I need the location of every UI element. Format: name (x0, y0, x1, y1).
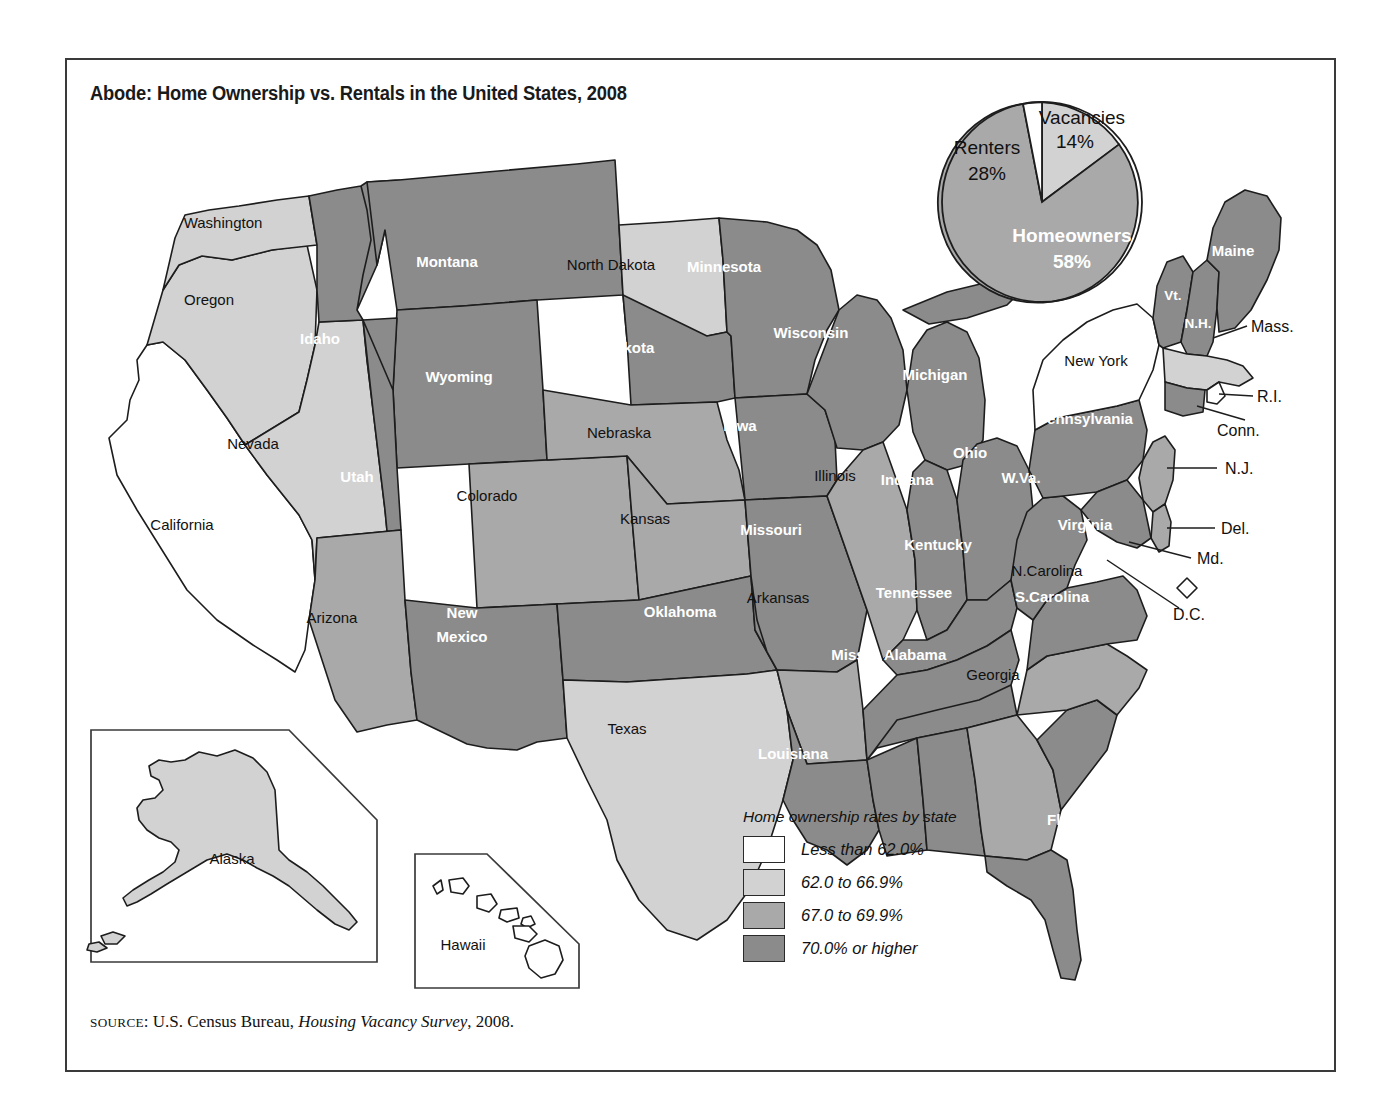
label-louisiana: Louisiana (758, 745, 829, 762)
state-new-mexico[interactable] (405, 600, 567, 750)
marker-dc-diamond (1177, 578, 1197, 598)
inset-label-alaska: Alaska (209, 850, 255, 867)
pie-label-renters: Renters (954, 137, 1021, 158)
legend-label-2: 67.0 to 69.9% (801, 906, 903, 925)
legend-row[interactable]: 67.0 to 69.9% (743, 902, 957, 929)
label-arkansas: Arkansas (747, 589, 810, 606)
inset-shape-hawaii[interactable] (433, 878, 563, 978)
label-mississippi: Miss. (831, 646, 869, 663)
pie-chart: Vacancies 14% Renters 28% Homeowners 58% (938, 102, 1142, 303)
pie-label-homeowners: Homeowners (1012, 225, 1131, 246)
label-kansas: Kansas (620, 510, 670, 527)
callout-conn: Conn. (1217, 422, 1260, 439)
pie-label-vacancies: Vacancies (1039, 107, 1125, 128)
label-utah: Utah (340, 468, 373, 485)
label-wyoming: Wyoming (425, 368, 492, 385)
legend-row[interactable]: 70.0% or higher (743, 935, 957, 962)
label-new-mexico-line1: New (447, 604, 478, 621)
state-colorado[interactable] (469, 456, 639, 608)
label-alabama: Alabama (884, 646, 947, 663)
map-figure: Vacancies 14% Renters 28% Homeowners 58%… (67, 60, 1334, 1070)
legend-title: Home ownership rates by state (743, 808, 957, 826)
legend-label-0: Less than 62.0% (801, 840, 924, 859)
label-pennsylvania: Pennsylvania (1037, 410, 1134, 427)
label-nevada: Nevada (227, 435, 279, 452)
label-texas: Texas (607, 720, 646, 737)
hawaii-inset: Hawaii (415, 854, 579, 988)
legend-swatch-2 (743, 902, 785, 929)
label-west-virginia: W.Va. (1001, 469, 1040, 486)
label-new-hampshire: N.H. (1185, 316, 1212, 331)
label-nebraska: Nebraska (587, 424, 652, 441)
label-arizona: Arizona (307, 609, 359, 626)
label-florida: Florida (1047, 811, 1098, 828)
label-michigan: Michigan (902, 366, 967, 383)
label-kentucky: Kentucky (904, 536, 972, 553)
callout-nj: N.J. (1225, 460, 1253, 477)
source-publication: Housing Vacancy Survey (298, 1012, 467, 1031)
label-washington: Washington (184, 214, 263, 231)
callout-md: Md. (1197, 550, 1224, 567)
label-illinois: Illinois (814, 467, 856, 484)
legend-swatch-3 (743, 935, 785, 962)
label-north-dakota: North Dakota (567, 256, 656, 273)
label-new-mexico-line2: Mexico (437, 628, 488, 645)
label-minnesota: Minnesota (687, 258, 762, 275)
legend-row[interactable]: 62.0 to 66.9% (743, 869, 957, 896)
label-north-carolina: N.Carolina (1012, 562, 1084, 579)
label-wisconsin: Wisconsin (774, 324, 849, 341)
source-prefix: SOURCE (90, 1015, 144, 1030)
label-iowa: Iowa (723, 417, 757, 434)
label-tennessee: Tennessee (876, 584, 952, 601)
label-virginia: Virginia (1058, 516, 1113, 533)
inset-shape-aleutians[interactable] (87, 932, 125, 952)
leader-conn (1197, 406, 1245, 420)
label-colorado: Colorado (457, 487, 518, 504)
inset-label-hawaii: Hawaii (440, 936, 485, 953)
label-new-york: New York (1064, 352, 1128, 369)
label-missouri: Missouri (740, 521, 802, 538)
label-oregon: Oregon (184, 291, 234, 308)
label-south-dakota: South Dakota (558, 339, 655, 356)
label-idaho: Idaho (300, 330, 340, 347)
label-south-carolina: S.Carolina (1015, 588, 1090, 605)
callout-dc: D.C. (1173, 606, 1205, 623)
callout-mass: Mass. (1251, 318, 1294, 335)
label-oklahoma: Oklahoma (644, 603, 717, 620)
source-year: , 2008. (467, 1012, 514, 1031)
label-ohio: Ohio (953, 444, 987, 461)
state-arizona[interactable] (309, 530, 417, 732)
legend-swatch-1 (743, 869, 785, 896)
state-iowa[interactable] (735, 394, 837, 500)
pie-value-renters: 28% (968, 163, 1006, 184)
label-california: California (150, 516, 214, 533)
callout-del: Del. (1221, 520, 1249, 537)
legend-row[interactable]: Less than 62.0% (743, 836, 957, 863)
label-maine: Maine (1212, 242, 1255, 259)
alaska-inset: Alaska (87, 730, 377, 962)
state-florida[interactable] (985, 850, 1081, 980)
label-montana: Montana (416, 253, 478, 270)
state-montana[interactable] (367, 160, 623, 310)
map-legend: Home ownership rates by state Less than … (743, 808, 957, 968)
source-agency: U.S. Census Bureau, (153, 1012, 294, 1031)
infographic-frame: Abode: Home Ownership vs. Rentals in the… (65, 58, 1336, 1072)
legend-label-1: 62.0 to 66.9% (801, 873, 903, 892)
pie-value-homeowners: 58% (1053, 251, 1091, 272)
callout-ri: R.I. (1257, 388, 1282, 405)
inset-shape-alaska[interactable] (123, 750, 357, 930)
state-maine[interactable] (1207, 190, 1281, 332)
legend-swatch-0 (743, 836, 785, 863)
label-indiana: Indiana (881, 471, 934, 488)
legend-label-3: 70.0% or higher (801, 939, 918, 958)
source-note: SOURCE: U.S. Census Bureau, Housing Vaca… (90, 1012, 514, 1032)
pie-value-vacancies: 14% (1056, 131, 1094, 152)
label-georgia: Georgia (966, 666, 1020, 683)
label-vermont: Vt. (1164, 288, 1181, 303)
